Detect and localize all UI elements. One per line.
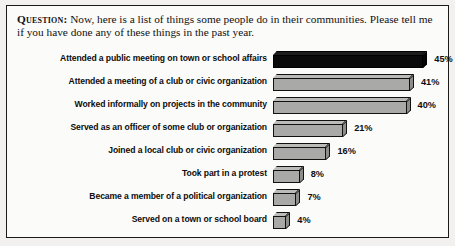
bar-3d	[273, 211, 290, 234]
bar-chart: Attended a public meeting on town or sch…	[7, 50, 450, 239]
bar-front-face	[273, 193, 296, 206]
bar-front-face	[273, 55, 423, 68]
bar-3d	[273, 188, 300, 211]
bar-3d	[273, 50, 427, 73]
question-text: Question: Now, here is a list of things …	[17, 13, 437, 39]
bar-row: Joined a local club or civic organizatio…	[7, 142, 450, 165]
bar-category-label: Worked informally on projects in the com…	[11, 99, 267, 109]
bar-front-face	[273, 124, 343, 137]
bar-front-face	[273, 147, 326, 160]
question-body: Now, here is a list of things some peopl…	[17, 13, 432, 38]
bar-3d	[273, 165, 304, 188]
question-label: Question:	[17, 13, 67, 25]
bar-category-label: Attended a meeting of a club or civic or…	[11, 76, 267, 86]
bar-value-label: 21%	[354, 123, 372, 133]
bar-3d	[273, 142, 330, 165]
bar-category-label: Served on a town or school board	[11, 214, 267, 224]
bar-3d	[273, 119, 347, 142]
bar-value-label: 16%	[337, 146, 355, 156]
bar-category-label: Served as an officer of some club or org…	[11, 122, 267, 132]
survey-chart-page: Question: Now, here is a list of things …	[0, 0, 455, 246]
bar-row: Attended a public meeting on town or sch…	[7, 50, 450, 73]
bar-row: Served as an officer of some club or org…	[7, 119, 450, 142]
bar-front-face	[273, 101, 407, 114]
bar-value-label: 8%	[311, 169, 324, 179]
bar-front-face	[273, 78, 410, 91]
bar-row: Worked informally on projects in the com…	[7, 96, 450, 119]
bar-row: Became a member of a political organizat…	[7, 188, 450, 211]
bar-category-label: Attended a public meeting on town or sch…	[11, 53, 267, 63]
bar-value-label: 45%	[434, 54, 452, 64]
bar-row: Attended a meeting of a club or civic or…	[7, 73, 450, 96]
bar-value-label: 41%	[421, 77, 439, 87]
bar-category-label: Became a member of a political organizat…	[11, 191, 267, 201]
bar-value-label: 7%	[307, 192, 320, 202]
bar-3d	[273, 73, 414, 96]
bar-front-face	[273, 216, 286, 229]
bar-front-face	[273, 170, 300, 183]
bar-category-label: Joined a local club or civic organizatio…	[11, 145, 267, 155]
bar-3d	[273, 96, 411, 119]
bar-row: Took part in a protest8%	[7, 165, 450, 188]
bar-value-label: 4%	[297, 215, 310, 225]
bar-row: Served on a town or school board4%	[7, 211, 450, 234]
chart-frame: Question: Now, here is a list of things …	[6, 5, 449, 238]
bar-value-label: 40%	[418, 100, 436, 110]
bar-category-label: Took part in a protest	[11, 168, 267, 178]
